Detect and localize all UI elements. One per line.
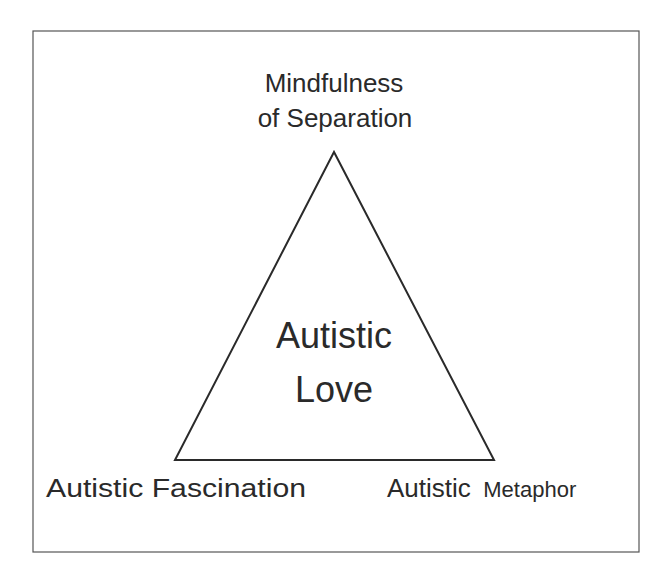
diagram-canvas: Mindfulness of Separation Autistic Love … bbox=[0, 0, 671, 585]
bottom-right-label-part1: Autistic bbox=[387, 473, 471, 503]
bottom-right-vertex-label: Autistic Metaphor bbox=[387, 473, 576, 503]
center-label-line1: Autistic bbox=[276, 315, 392, 356]
center-label-line2: Love bbox=[295, 369, 373, 410]
bottom-left-vertex-label: Autistic Fascination bbox=[46, 473, 306, 503]
top-vertex-label-line1: Mindfulness bbox=[265, 68, 404, 98]
triangle bbox=[175, 152, 494, 460]
top-vertex-label-line2: of Separation bbox=[258, 103, 413, 133]
bottom-right-label-part2: Metaphor bbox=[483, 477, 576, 502]
